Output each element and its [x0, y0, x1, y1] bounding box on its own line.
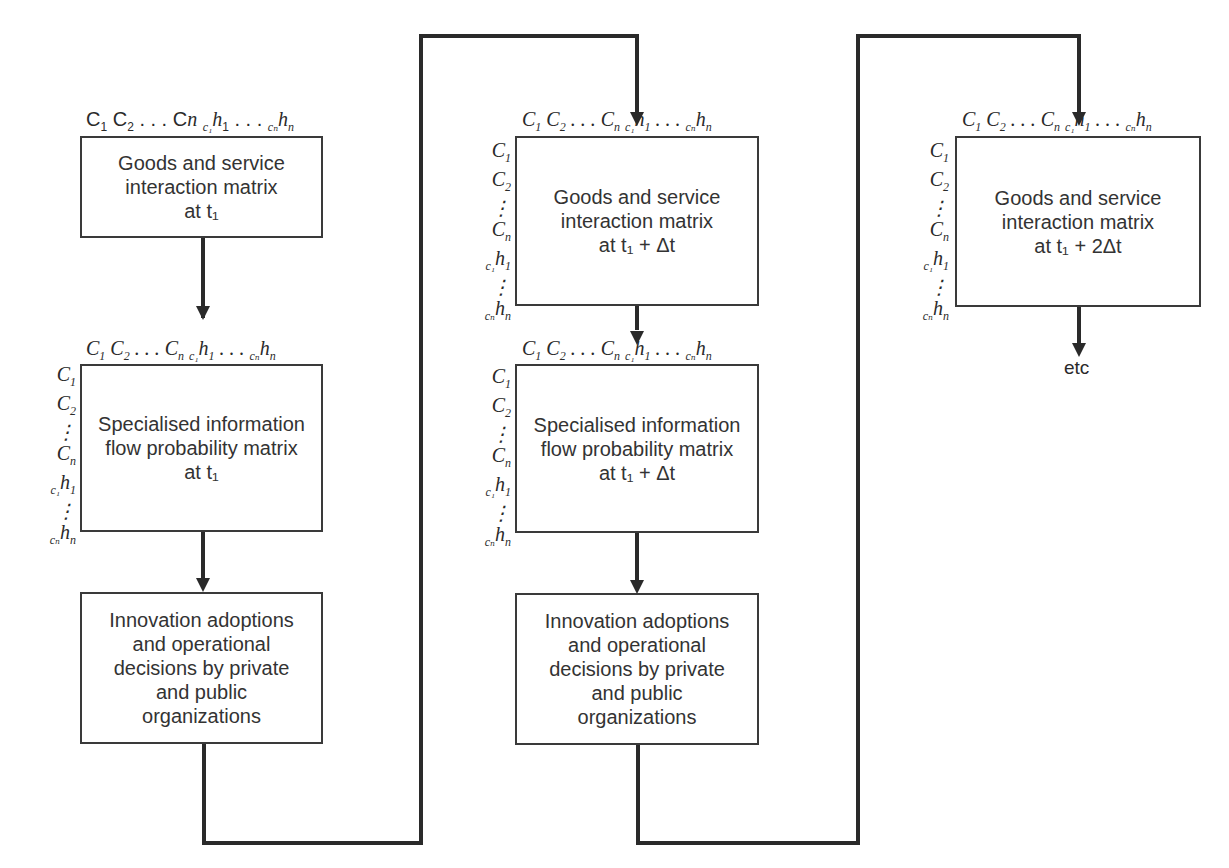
row-header-goods-t1dt: C1C2⋮Cnc₁h1⋮cₙhn	[455, 140, 511, 327]
row-header-info-t1dt: C1C2⋮Cnc₁h1⋮cₙhn	[455, 366, 511, 553]
box-label: Innovation adoptions and operational dec…	[545, 609, 730, 729]
info-flow-matrix-t1: Specialised information flow probability…	[80, 364, 323, 532]
goods-service-matrix-t1dt: Goods and service interaction matrix at …	[515, 136, 759, 306]
column-header-goods-t1: C1 C2 . . . Cn c₁h1 . . . cₙhn	[86, 108, 294, 135]
goods-service-matrix-t12dt: Goods and service interaction matrix at …	[955, 136, 1201, 307]
box-label: Specialised information flow probability…	[534, 413, 741, 485]
column-header-info-t1dt: C1 C2 . . . Cn c₁h1 . . . cₙhn	[522, 337, 712, 364]
box-label: Goods and service interaction matrix at …	[995, 186, 1162, 258]
column-header-goods-t1dt: C1 C2 . . . Cn c₁h1 . . . cₙhn	[522, 108, 712, 135]
box-label: Innovation adoptions and operational dec…	[109, 608, 294, 728]
row-header-info-t1: C1C2⋮Cnc₁h1⋮cₙhn	[20, 364, 76, 551]
innovation-decisions-t1: Innovation adoptions and operational dec…	[80, 592, 323, 744]
column-header-goods-t12dt: C1 C2 . . . Cn c₁h1 . . . cₙhn	[962, 108, 1152, 135]
etc-label: etc	[1064, 357, 1089, 379]
box-label: Goods and service interaction matrix at …	[118, 151, 285, 223]
row-header-goods-t12dt: C1C2⋮Cnc₁h1⋮cₙhn	[893, 140, 949, 327]
box-label: Specialised information flow probability…	[98, 412, 305, 484]
box-label: Goods and service interaction matrix at …	[554, 185, 721, 257]
column-header-info-t1: C1 C2 . . . Cn c₁h1 . . . cₙhn	[86, 337, 276, 364]
goods-service-matrix-t1: Goods and service interaction matrix at …	[80, 136, 323, 238]
info-flow-matrix-t1dt: Specialised information flow probability…	[515, 364, 759, 533]
innovation-decisions-t1dt: Innovation adoptions and operational dec…	[515, 593, 759, 745]
